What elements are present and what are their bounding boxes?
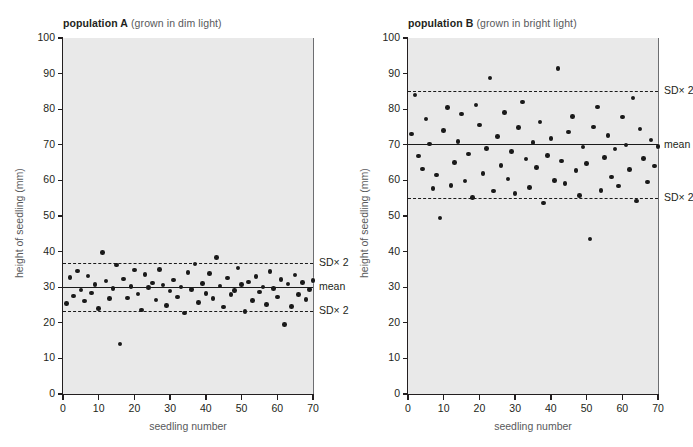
- data-point: [275, 295, 280, 300]
- chart-title-b-rest: (grown in bright light): [476, 17, 576, 29]
- data-point: [150, 281, 155, 286]
- y-tick-label: 90: [364, 67, 400, 79]
- data-point: [509, 149, 514, 154]
- chart-panel-population-b: population B (grown in bright light) 010…: [345, 0, 690, 447]
- data-point: [304, 297, 309, 302]
- data-point: [175, 295, 180, 300]
- data-point: [225, 276, 230, 281]
- sd-lower-label-b: SD× 2: [664, 191, 693, 203]
- x-tick-mark: [241, 395, 242, 400]
- data-point: [132, 268, 137, 273]
- x-tick-mark: [407, 395, 408, 400]
- data-point: [545, 153, 550, 158]
- data-point: [307, 287, 312, 292]
- data-point: [513, 191, 518, 196]
- x-tick-label: 40: [186, 402, 226, 414]
- data-point: [481, 171, 486, 176]
- sd-lower-line-a: [63, 311, 313, 312]
- data-point: [282, 322, 287, 327]
- y-tick-label: 90: [19, 67, 55, 79]
- data-point: [246, 280, 251, 285]
- x-tick-mark: [205, 395, 206, 400]
- y-axis-label-a: height of seedling (mm): [13, 168, 25, 278]
- y-tick-mark: [403, 251, 408, 252]
- x-tick-mark: [169, 395, 170, 400]
- chart-title-b-bold: population B: [408, 17, 473, 29]
- data-point: [549, 136, 554, 141]
- y-tick-mark: [58, 215, 63, 216]
- data-point: [289, 304, 294, 309]
- data-point: [254, 274, 259, 279]
- y-tick-mark: [58, 251, 63, 252]
- data-point: [441, 128, 446, 133]
- y-tick-mark: [403, 109, 408, 110]
- data-point: [520, 100, 525, 105]
- x-tick-mark: [62, 395, 63, 400]
- mean-line-a: [63, 287, 313, 288]
- x-tick-label: 20: [114, 402, 154, 414]
- data-point: [584, 161, 589, 166]
- data-point: [420, 167, 425, 172]
- data-point: [609, 175, 614, 180]
- data-point: [620, 115, 625, 120]
- y-tick-label: 0: [19, 387, 55, 399]
- data-point: [311, 278, 316, 283]
- data-point: [602, 155, 607, 160]
- y-tick-mark: [58, 73, 63, 74]
- x-tick-mark: [550, 395, 551, 400]
- x-tick-label: 0: [43, 402, 83, 414]
- chart-title-a-bold: population A: [63, 17, 128, 29]
- data-point: [107, 296, 112, 301]
- y-tick-label: 20: [19, 316, 55, 328]
- data-point: [264, 302, 269, 307]
- data-point: [164, 303, 169, 308]
- y-tick-label: 100: [19, 31, 55, 43]
- y-tick-label: 0: [364, 387, 400, 399]
- data-point: [300, 280, 305, 285]
- y-tick-mark: [58, 180, 63, 181]
- mean-line-b: [408, 144, 658, 145]
- data-point: [186, 270, 191, 275]
- x-axis-label-b: seedling number: [408, 420, 658, 432]
- data-point: [563, 181, 568, 186]
- x-tick-label: 10: [79, 402, 119, 414]
- y-tick-label: 10: [19, 351, 55, 363]
- x-tick-mark: [479, 395, 480, 400]
- chart-title-b: population B (grown in bright light): [408, 17, 577, 29]
- data-point: [527, 185, 532, 190]
- y-tick-label: 10: [364, 351, 400, 363]
- x-tick-label: 50: [567, 402, 607, 414]
- data-point: [641, 156, 646, 161]
- x-tick-label: 30: [495, 402, 535, 414]
- y-tick-mark: [403, 358, 408, 359]
- y-tick-mark: [403, 180, 408, 181]
- x-tick-label: 10: [424, 402, 464, 414]
- y-tick-mark: [58, 144, 63, 145]
- y-tick-mark: [58, 358, 63, 359]
- data-point: [125, 296, 130, 301]
- mean-line-label-b: mean: [664, 138, 690, 150]
- x-tick-label: 30: [150, 402, 190, 414]
- data-point: [606, 133, 611, 138]
- y-tick-label: 100: [364, 31, 400, 43]
- data-point: [577, 193, 582, 198]
- data-point: [627, 167, 632, 172]
- data-point: [599, 188, 604, 193]
- x-tick-label: 70: [293, 402, 333, 414]
- y-tick-mark: [58, 37, 63, 38]
- data-point: [574, 168, 579, 173]
- data-point: [456, 139, 461, 144]
- y-tick-mark: [403, 287, 408, 288]
- y-tick-label: 80: [19, 102, 55, 114]
- data-point: [211, 296, 216, 301]
- data-point: [64, 301, 69, 306]
- x-axis-label-a: seedling number: [63, 420, 313, 432]
- data-point: [82, 299, 87, 304]
- x-tick-mark: [586, 395, 587, 400]
- data-point: [250, 298, 255, 303]
- x-tick-mark: [134, 395, 135, 400]
- x-tick-label: 70: [638, 402, 678, 414]
- data-point: [157, 267, 162, 272]
- data-point: [75, 269, 80, 274]
